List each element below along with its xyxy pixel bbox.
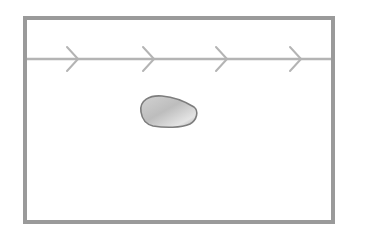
diagram-canvas bbox=[0, 0, 367, 242]
pebble-object bbox=[141, 96, 197, 127]
